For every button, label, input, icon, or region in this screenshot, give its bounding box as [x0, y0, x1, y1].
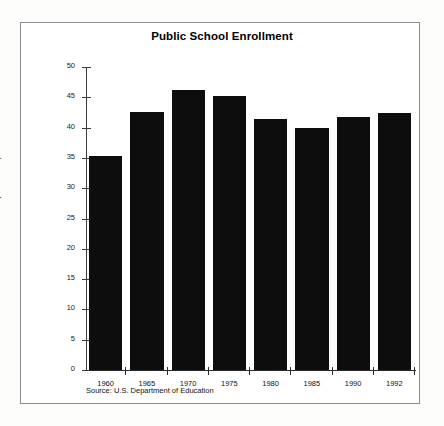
chart-figure: Public School Enrollment Students (in mi…: [0, 0, 444, 426]
y-axis-title: Students (in millions): [0, 136, 1, 220]
y-axis-tick-label: 20: [67, 243, 75, 252]
y-axis-tick-label: 0: [71, 364, 75, 373]
y-axis-tick: 40: [82, 128, 91, 129]
x-axis-tick: [208, 367, 209, 375]
x-axis-tick: [332, 367, 333, 375]
plot-area: 05101520253035404550 1960196519701975198…: [86, 67, 416, 370]
x-axis-tick: [167, 367, 168, 375]
y-axis-tick-label: 40: [67, 122, 75, 131]
y-axis-tick-label: 45: [67, 91, 75, 100]
x-axis-label: 1992: [372, 379, 417, 388]
y-axis-tick-label: 25: [67, 213, 75, 222]
chart-title: Public School Enrollment: [0, 30, 444, 42]
x-axis-tick: [290, 367, 291, 375]
y-axis-title-line-2: (in millions): [0, 136, 1, 220]
x-axis-tick: [125, 367, 126, 375]
bar: [172, 90, 205, 370]
x-axis-label: 1985: [289, 379, 334, 388]
y-axis-tick-label: 30: [67, 182, 75, 191]
y-axis-tick-label: 35: [67, 152, 75, 161]
y-axis-tick: 50: [82, 67, 91, 68]
y-axis-tick: 45: [82, 97, 91, 98]
bar: [254, 119, 287, 370]
x-axis-label: 1990: [331, 379, 376, 388]
x-axis-tick: [373, 367, 374, 375]
x-axis-line: [86, 370, 416, 371]
y-axis-tick-label: 15: [67, 273, 75, 282]
bar: [295, 128, 328, 370]
x-axis-label: 1980: [248, 379, 293, 388]
bar: [213, 96, 246, 370]
y-axis-tick-label: 10: [67, 303, 75, 312]
y-axis-tick: 0: [82, 370, 91, 371]
bar: [337, 117, 370, 370]
bar: [130, 112, 163, 370]
bar: [378, 113, 411, 370]
source-note: Source: U.S. Department of Education: [86, 386, 214, 395]
bar: [89, 156, 122, 370]
y-axis-tick-label: 5: [71, 334, 75, 343]
x-axis-tick: [414, 367, 415, 375]
y-axis-tick-label: 50: [67, 61, 75, 70]
x-axis-tick: [249, 367, 250, 375]
